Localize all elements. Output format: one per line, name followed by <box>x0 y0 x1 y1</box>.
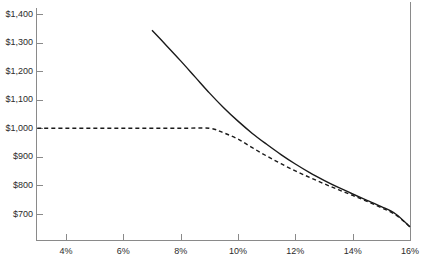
series-solid-line <box>152 30 410 227</box>
chart-canvas: $1,400$1,300$1,200$1,100$1,000$900$800$7… <box>0 0 422 265</box>
series-dashed-line <box>37 128 410 227</box>
plot-series-layer <box>0 0 422 265</box>
